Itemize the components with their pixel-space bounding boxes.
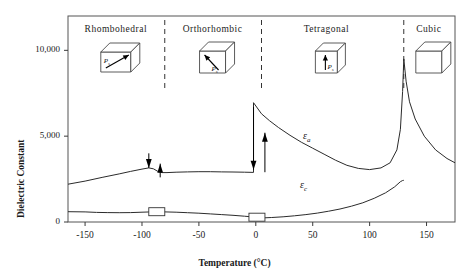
x-axis-title: Temperature (°C): [0, 258, 469, 268]
y-axis-title: Dielectric Constant: [16, 140, 26, 218]
curve-label-epsilon-a-subscript: a: [307, 136, 311, 144]
hysteresis-box: [249, 213, 265, 221]
x-axis-tick-label: 150: [404, 230, 450, 240]
x-axis-tick-label: -100: [119, 230, 165, 240]
crystal-orthorhombic-cube: Ps: [200, 42, 235, 74]
x-axis-tick-label: -150: [62, 230, 108, 240]
curve-label-epsilon-c: εc: [300, 179, 307, 193]
crystal-rhombohedral-cube: Ps: [101, 43, 140, 72]
dielectric-constant-vs-temperature-figure: PsPsPs Dielectric Constant Temperature (…: [0, 0, 469, 279]
phase-label-orthorhombic: Orthorhombic: [153, 24, 273, 34]
x-axis-tick-label: 100: [347, 230, 393, 240]
hysteresis-arrow-head-down: [146, 159, 152, 168]
hysteresis-arrow-head-up: [157, 164, 163, 173]
curve-label-epsilon-c-subscript: c: [304, 185, 307, 193]
crystal-cubic-cube: [416, 42, 451, 73]
y-axis-tick-label: 10,000: [14, 44, 60, 54]
x-axis-tick-label: 50: [290, 230, 336, 240]
y-axis-tick-label: 5,000: [14, 130, 60, 140]
hysteresis-arrow-head-up: [262, 133, 268, 142]
y-axis-tick-label: 0: [14, 216, 60, 226]
x-axis-tick-label: -50: [176, 230, 222, 240]
curve-label-epsilon-a: εa: [303, 130, 310, 144]
x-axis-tick-label: 0: [233, 230, 279, 240]
curve-εc: [68, 180, 404, 218]
phase-label-cubic: Cubic: [369, 24, 469, 34]
hysteresis-arrow-head-down: [251, 161, 257, 170]
hysteresis-box: [149, 208, 165, 216]
crystal-tetragonal-cube: Ps: [315, 43, 345, 73]
